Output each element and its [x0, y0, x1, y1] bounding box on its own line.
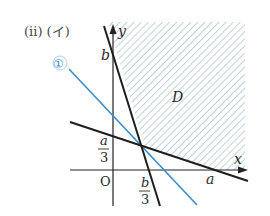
origin-label: O [100, 174, 111, 189]
svg-text:3: 3 [141, 192, 149, 207]
problem-label: (ii) (イ) [24, 24, 70, 39]
y-axis-label: y [117, 23, 127, 39]
svg-text:a: a [100, 133, 108, 148]
region-d-label: D [171, 89, 183, 105]
a-over-3-label: a 3 [98, 133, 109, 165]
b-intercept-label: b [101, 47, 110, 63]
a-intercept-label: a [206, 171, 214, 187]
svg-text:b: b [141, 175, 149, 190]
x-axis-label: x [234, 151, 242, 167]
diagram-canvas: (ii) (イ) ① y x b a 3 O b 3 a D [0, 0, 270, 216]
b-over-3-label: b 3 [139, 175, 150, 207]
svg-text:3: 3 [100, 150, 108, 165]
line-1-label: ① [53, 57, 64, 71]
